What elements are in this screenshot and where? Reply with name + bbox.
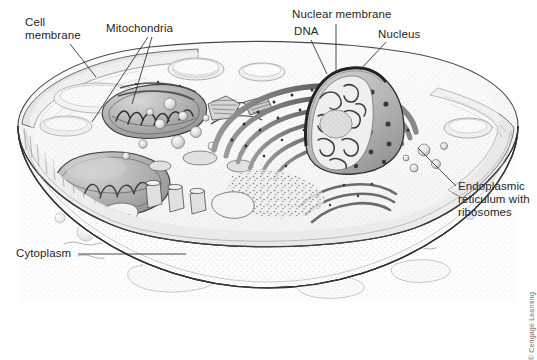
- label-endoplasmic-reticulum: Endoplasmic reticulum with ribosomes: [458, 180, 530, 219]
- label-cytoplasm: Cytoplasm: [16, 247, 71, 260]
- cell-body: [0, 41, 537, 300]
- nucleus: [305, 68, 404, 174]
- label-nuclear-membrane: Nuclear membrane: [292, 8, 391, 21]
- label-nucleus: Nucleus: [378, 28, 420, 41]
- label-dna: DNA: [294, 25, 319, 38]
- copyright-notice: © Cengage Learning: [528, 292, 535, 360]
- label-cell-membrane: Cell membrane: [25, 16, 81, 42]
- label-mitochondria: Mitochondria: [106, 22, 173, 35]
